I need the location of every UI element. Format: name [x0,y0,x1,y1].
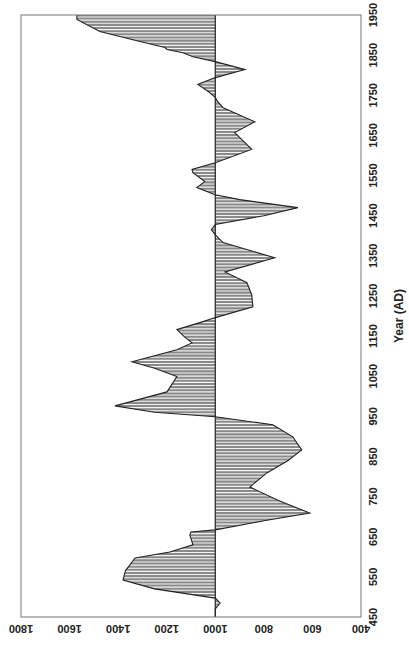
x-tick-label: 1150 [367,324,379,348]
y-axis-ticks: 40060080010001200140016001800 [9,623,370,635]
y-tick-label: 400 [352,623,370,635]
x-tick-label: 1050 [367,364,379,388]
x-tick-label: 750 [367,487,379,505]
area-fill [77,15,310,617]
x-axis-ticks: 4505506507508509501050115012501350145015… [367,3,379,626]
plot-frame [21,15,361,617]
y-tick-label: 1400 [106,623,130,635]
x-tick-label: 1350 [367,244,379,268]
x-tick-label: 1550 [367,163,379,187]
y-tick-label: 1200 [154,623,178,635]
x-tick-label: 850 [367,447,379,465]
x-tick-label: 1950 [367,3,379,27]
chart-rotated-container: 4505506507508509501050115012501350145015… [0,0,409,670]
x-tick-label: 550 [367,568,379,586]
x-tick-label: 1850 [367,43,379,67]
ring-thickness-chart: 4505506507508509501050115012501350145015… [0,0,409,670]
data-line [77,15,310,617]
x-axis-label: Year (AD) [392,289,406,343]
x-tick-label: 1250 [367,284,379,308]
x-tick-label: 1750 [367,83,379,107]
y-tick-label: 1000 [203,623,227,635]
bar-stripes [21,17,361,616]
y-tick-label: 600 [303,623,321,635]
x-tick-label: 650 [367,528,379,546]
x-tick-label: 1450 [367,203,379,227]
y-tick-label: 1600 [57,623,81,635]
x-tick-label: 950 [367,407,379,425]
y-tick-label: 800 [255,623,273,635]
x-tick-label: 1650 [367,123,379,147]
plot-area [21,15,361,617]
y-tick-label: 1800 [9,623,33,635]
